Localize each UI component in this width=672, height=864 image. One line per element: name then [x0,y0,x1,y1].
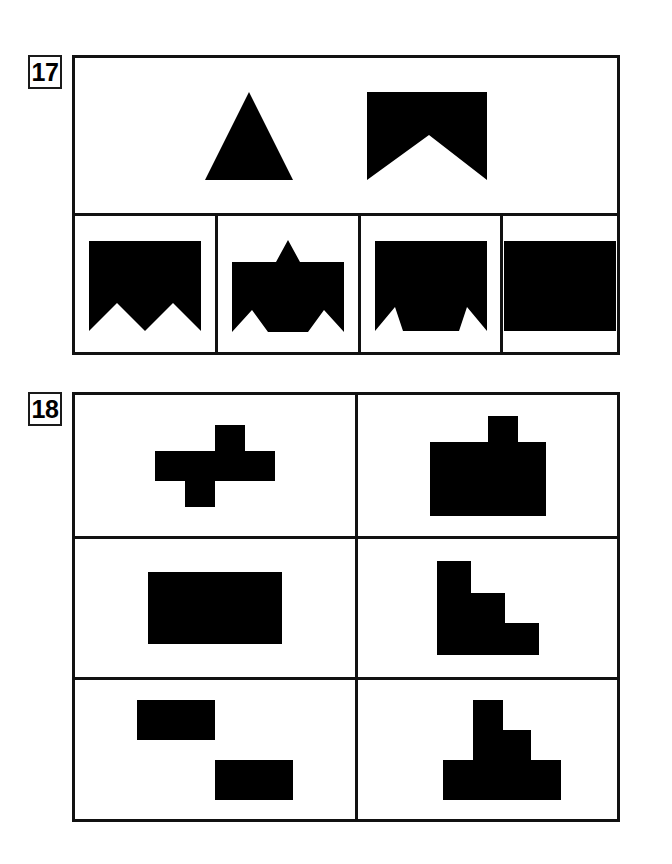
puzzle-17-frame [72,55,620,355]
option-c-cell[interactable] [361,216,500,355]
cell-r3c2[interactable] [358,680,617,819]
option-b-cell[interactable] [218,216,358,355]
option-b-shape [232,240,344,332]
cell-r1c2[interactable] [358,395,617,536]
cell-r2c2-shape [437,561,539,655]
cell-r1c1-shape [122,425,308,507]
cell-r2c1-shape [148,572,282,644]
option-d-cell[interactable] [503,216,617,355]
option-c-shape [375,241,487,331]
cell-r1c1[interactable] [75,395,355,536]
notched-rectangle-piece [367,92,487,180]
puzzle-18-frame [72,392,620,822]
cell-r2c2[interactable] [358,539,617,677]
cell-r3c1[interactable] [75,680,355,819]
puzzle-17-prompt-row [75,58,617,213]
cell-r2c1[interactable] [75,539,355,677]
option-d-shape [504,241,616,331]
cell-r3c1-shape [120,700,310,800]
triangle-piece [205,92,293,180]
cell-r3c2-shape [415,700,561,800]
cell-r1c2-shape [430,416,546,516]
option-a-cell[interactable] [75,216,215,355]
puzzle-number-badge-17: 17 [28,55,62,89]
option-a-shape [89,241,201,331]
worksheet-page: 17 [0,0,672,864]
puzzle-number-badge-18: 18 [28,392,62,426]
